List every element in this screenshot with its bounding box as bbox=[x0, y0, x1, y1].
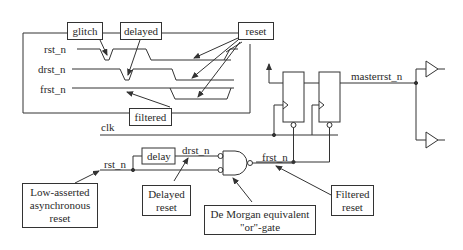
drst-n-waveform bbox=[72, 69, 234, 80]
annotation-line: reset bbox=[332, 201, 373, 214]
flip-flop-2 bbox=[319, 72, 340, 122]
callout-glitch: glitch bbox=[67, 22, 103, 40]
annotation-line: Delayed bbox=[143, 188, 190, 201]
de-morgan-gate bbox=[223, 151, 247, 175]
callout-reset: reset bbox=[238, 22, 274, 40]
signal-label-rst-n: rst_n bbox=[104, 158, 126, 170]
signal-label-masterrst-n: masterrst_n bbox=[351, 70, 402, 82]
annotation-delayed-reset: Delayed reset bbox=[142, 185, 191, 216]
callout-filtered: filtered bbox=[129, 108, 172, 126]
frst-n-waveform bbox=[72, 88, 234, 99]
annotation-line: Low-asserted bbox=[23, 186, 97, 199]
signal-label-frst-n: frst_n bbox=[262, 151, 288, 163]
timing-label-rst-n: rst_n bbox=[44, 43, 66, 55]
annotation-line: Filtered bbox=[332, 188, 373, 201]
signal-label-drst-n: drst_n bbox=[182, 144, 210, 156]
timing-label-drst-n: drst_n bbox=[38, 63, 66, 75]
annotation-line: "or"-gate bbox=[205, 221, 315, 234]
annotation-de-morgan-gate: De Morgan equivalent "or"-gate bbox=[204, 205, 316, 235]
timing-label-frst-n: frst_n bbox=[40, 83, 66, 95]
reset-synchronizer-diagram: glitch delayed reset filtered rst_n drst… bbox=[0, 0, 463, 250]
signal-label-clk: clk bbox=[101, 121, 114, 133]
delay-block-label: delay bbox=[147, 150, 171, 162]
rst-n-waveform bbox=[77, 49, 238, 60]
flip-flop-1 bbox=[283, 72, 304, 122]
annotation-line: asynchronous bbox=[23, 199, 97, 212]
annotation-line: reset bbox=[23, 212, 97, 225]
callout-delayed: delayed bbox=[120, 22, 162, 40]
annotation-filtered-reset: Filtered reset bbox=[331, 185, 374, 216]
annotation-low-asserted-reset: Low-asserted asynchronous reset bbox=[22, 183, 98, 228]
annotation-line: De Morgan equivalent bbox=[205, 208, 315, 221]
annotation-line: reset bbox=[143, 201, 190, 214]
